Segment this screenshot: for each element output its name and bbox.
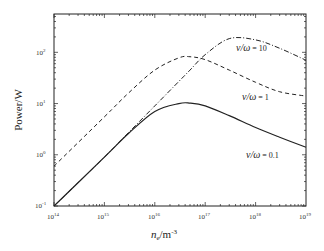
annotation-nu-omega-0-1: ν/ω = 0.1 bbox=[246, 149, 279, 160]
chart: 102 101 100 10-1 1014 1015 1016 1017 101… bbox=[0, 0, 324, 251]
y-tick-label: 100 bbox=[36, 150, 46, 159]
x-tick-labels: 1014 1015 1016 1017 1018 1019 bbox=[47, 212, 312, 221]
axis-ticks bbox=[54, 14, 306, 206]
y-tick-labels: 102 101 100 10-1 bbox=[35, 48, 47, 210]
y-tick-label: 102 bbox=[36, 48, 46, 57]
x-tick-label: 1016 bbox=[148, 212, 161, 221]
x-tick-label: 1015 bbox=[97, 212, 110, 221]
curve-dashed bbox=[54, 56, 306, 166]
x-tick-label: 1018 bbox=[249, 212, 262, 221]
annotation-nu-omega-1: ν/ω = 1 bbox=[242, 91, 269, 102]
y-tick-label: 10-1 bbox=[35, 201, 47, 210]
annotation-nu-omega-10: ν/ω = 10 bbox=[236, 42, 267, 53]
plot-frame bbox=[54, 14, 306, 206]
x-tick-label: 1017 bbox=[198, 212, 211, 221]
x-tick-label: 1019 bbox=[299, 212, 312, 221]
x-axis-label: ne/m-3 bbox=[151, 228, 178, 242]
x-tick-label: 1014 bbox=[47, 212, 60, 221]
data-curves bbox=[54, 38, 306, 206]
y-axis-label: Power/W bbox=[12, 89, 24, 131]
y-tick-label: 101 bbox=[36, 99, 46, 108]
curve-dash-dot bbox=[54, 38, 306, 206]
